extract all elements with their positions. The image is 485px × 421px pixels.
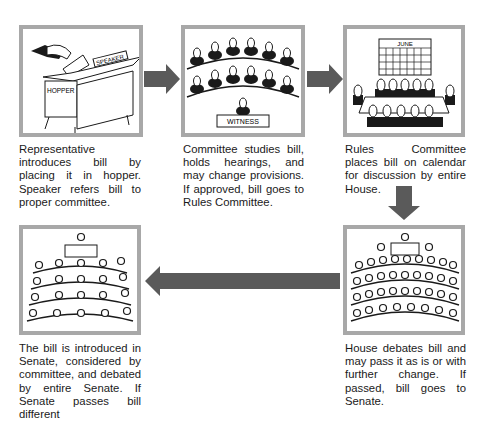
step-3-rules-committee-illustration: JUNE [343, 25, 465, 137]
step-2-committee-hearing-illustration: WITNESS [181, 25, 305, 137]
calendar-table-icon: JUNE [347, 29, 461, 133]
senate-chamber-icon [23, 229, 137, 331]
arrow-down-icon [388, 186, 420, 220]
hopper-desk-icon: SPEAKER HOPPER [23, 29, 139, 133]
arrow-left-icon [145, 266, 340, 296]
step-4-caption: House debates bill and may pass it as is… [345, 342, 466, 408]
svg-text:JUNE: JUNE [397, 41, 413, 47]
house-chamber-icon [347, 229, 461, 331]
step-2-caption: Committee studies bill, holds hearings, … [183, 143, 304, 209]
arrow-right-icon [307, 64, 343, 94]
step-1-caption: Representative introduces bill by placin… [19, 143, 141, 209]
arrow-right-icon [144, 64, 180, 94]
step-1-hopper-illustration: SPEAKER HOPPER [19, 25, 143, 137]
step-4-house-floor-illustration [343, 225, 465, 335]
svg-text:WITNESS: WITNESS [227, 118, 259, 125]
step-5-senate-floor-illustration [19, 225, 141, 335]
committee-hearing-icon: WITNESS [185, 29, 301, 133]
svg-text:HOPPER: HOPPER [47, 87, 75, 94]
step-5-caption: The bill is introduced in Senate, consid… [19, 342, 141, 421]
